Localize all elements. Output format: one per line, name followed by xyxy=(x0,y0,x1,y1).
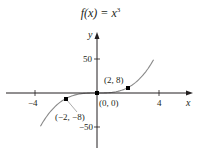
point-label-origin: (0, 0) xyxy=(99,98,119,108)
y-tick-label-neg50: −50 xyxy=(79,122,94,132)
y-axis-arrow-icon xyxy=(95,32,100,39)
x-tick-label-4: 4 xyxy=(157,98,162,108)
y-axis-label: y xyxy=(87,29,93,40)
x-tick-label-neg4: −4 xyxy=(28,98,38,108)
point-label-neg2-neg8: (−2, −8) xyxy=(55,112,85,122)
x-axis-arrow-icon xyxy=(186,91,193,96)
point-neg2-neg8 xyxy=(64,97,68,101)
y-tick-label-50: 50 xyxy=(83,54,93,64)
x-axis-label: x xyxy=(185,97,191,108)
point-2-8 xyxy=(126,86,130,90)
point-label-2-8: (2, 8) xyxy=(104,75,124,85)
point-origin xyxy=(95,91,99,95)
plot-area: −4 4 50 −50 x y (−2, −8) (0, 0) (2, 8) xyxy=(0,0,201,165)
